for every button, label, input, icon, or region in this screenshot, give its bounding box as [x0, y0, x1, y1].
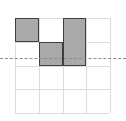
grid-line-vertical-4 — [110, 18, 111, 113]
grid-line-horizontal-3 — [15, 89, 110, 90]
shaded-cell-block-c — [39, 42, 63, 66]
dashed-reference-axis — [0, 58, 126, 59]
grid-line-horizontal-2 — [15, 66, 110, 67]
grid-figure — [0, 0, 126, 121]
grid-line-horizontal-4 — [15, 113, 110, 114]
shaded-cell-block-a — [15, 18, 39, 42]
